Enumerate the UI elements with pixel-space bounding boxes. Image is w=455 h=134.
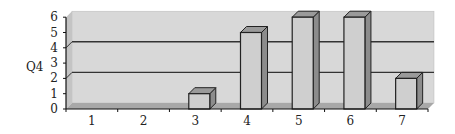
bar-front [241,33,262,110]
bar-7 [396,72,423,109]
x-tick-label: 6 [347,114,355,128]
bar-front [292,17,313,109]
y-tick-label: 1 [50,87,58,101]
bar-side [313,11,319,109]
y-tick-label: 2 [50,71,58,85]
y-tick-label: 0 [50,102,58,116]
x-tick-label: 4 [243,114,251,128]
y-tick-label: 6 [50,10,58,24]
bar-4 [241,27,268,110]
y-tick-label: 5 [50,26,58,40]
y-axis-title: Q4 [26,60,44,74]
q4-bar-chart: 0123456 1234567 Q4 [0,0,455,134]
bar-front [189,94,210,109]
y-tick-label: 4 [50,41,58,55]
bar-5 [292,11,319,109]
bar-front [396,78,417,109]
x-tick-label: 3 [191,114,199,128]
x-tick-label: 7 [398,114,406,128]
y-tick-label: 3 [50,56,58,70]
x-tick-label: 2 [140,114,148,128]
bar-side [262,27,268,110]
bar-6 [344,11,371,109]
bar-front [344,17,365,109]
bar-3 [189,88,216,109]
x-tick-labels: 1234567 [88,114,406,128]
bar-side [365,11,371,109]
side-wall [66,11,72,109]
x-tick-label: 1 [88,114,96,128]
y-tick-labels: 0123456 [50,10,58,116]
x-tick-label: 5 [295,114,303,128]
